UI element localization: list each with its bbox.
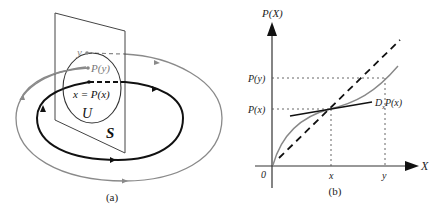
derivative-label: DxP(x): [374, 97, 403, 110]
x-axis-arrow-icon: [405, 161, 419, 171]
orbit-arrow-icon: [110, 157, 116, 163]
caption-a: (a): [106, 191, 119, 204]
point-y: [85, 51, 89, 55]
figure: y P(y) x = P(x) U S (a) P(X) X 0 x y P(y…: [0, 0, 441, 211]
y-axis-arrow-icon: [267, 22, 277, 36]
tick-p-y: P(y): [247, 73, 266, 85]
label-x-eq-px: x = P(x): [72, 88, 110, 101]
caption-b: (b): [329, 185, 342, 198]
tick-y: y: [381, 170, 387, 181]
panel-b: P(X) X 0 x y P(y) P(x) DxP(x) (b): [247, 7, 429, 198]
label-u: U: [82, 106, 93, 121]
tick-p-x: P(x): [247, 104, 266, 116]
origin-label: 0: [261, 169, 266, 180]
orbit-arrow-icon: [122, 179, 128, 184]
label-p-y: P(y): [90, 62, 110, 75]
tick-x: x: [328, 170, 334, 181]
point-x: [87, 80, 91, 84]
orbit-arrow-icon: [154, 60, 160, 65]
label-y: y: [76, 46, 82, 58]
label-s: S: [106, 125, 114, 141]
axis-label-px-upper: P(X): [261, 7, 283, 20]
orbit-arrow-icon: [152, 86, 158, 92]
axis-label-x: X: [420, 159, 429, 173]
point-p-y: [86, 66, 90, 70]
panel-a: y P(y) x = P(x) U S (a): [16, 13, 222, 204]
